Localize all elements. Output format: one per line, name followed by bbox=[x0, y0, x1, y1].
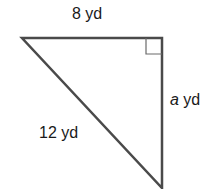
triangle-diagram: 8 yd a yd 12 yd bbox=[0, 0, 210, 189]
right-side-variable: a bbox=[170, 91, 179, 108]
top-side-value: 8 bbox=[72, 5, 81, 22]
right-side-unit: yd bbox=[183, 91, 200, 108]
hypotenuse-unit: yd bbox=[61, 124, 78, 141]
right-side-label: a yd bbox=[170, 92, 200, 108]
top-side-label: 8 yd bbox=[72, 6, 102, 22]
hypotenuse-label: 12 yd bbox=[39, 125, 78, 141]
top-side-unit: yd bbox=[85, 5, 102, 22]
hypotenuse-value: 12 bbox=[39, 124, 57, 141]
triangle-shape bbox=[22, 38, 162, 188]
right-angle-marker bbox=[146, 38, 162, 54]
